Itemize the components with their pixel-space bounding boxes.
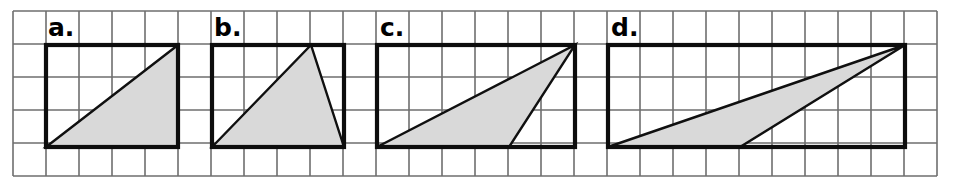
triangle-b (212, 45, 344, 147)
figure-canvas: a.b.c.d. (0, 0, 954, 194)
panel-label-b: b. (214, 13, 241, 42)
triangle-c (377, 45, 575, 147)
panel-label-c: c. (380, 13, 404, 42)
panel-c: c. (377, 13, 575, 147)
panel-label-d: d. (611, 13, 638, 42)
panel-b: b. (212, 13, 344, 147)
triangle-d (608, 45, 905, 147)
panel-label-a: a. (48, 13, 74, 42)
panel-d: d. (608, 13, 905, 147)
triangles-grid-figure: a.b.c.d. (0, 0, 954, 194)
